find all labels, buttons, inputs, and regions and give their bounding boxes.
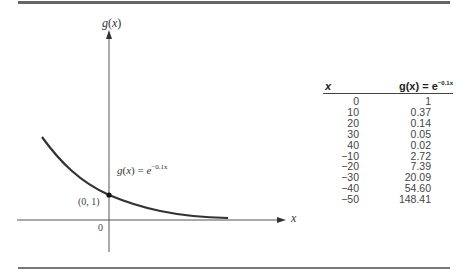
table-row: 01	[323, 96, 453, 107]
point-label: (0, 1)	[78, 196, 100, 207]
cell-g: 0.14	[359, 118, 453, 129]
cell-x: 40	[323, 140, 359, 151]
header-g-exp: −0.1x	[438, 80, 453, 86]
bottom-rule	[18, 267, 450, 269]
table-header: x g(x) = e−0.1x	[323, 80, 453, 94]
y-axis-arrow-icon	[106, 30, 112, 39]
exponential-curve	[42, 137, 228, 218]
origin-label: 0	[98, 222, 103, 233]
cell-x: 30	[323, 129, 359, 140]
curve-label-exp: −0.1x	[151, 163, 167, 171]
curve-label: g(x) = e−0.1x	[117, 163, 168, 176]
header-g-text: g(x) = e	[399, 80, 438, 92]
cell-g: 0.05	[359, 129, 453, 140]
table-row: 100.37	[323, 107, 453, 118]
x-axis-label: x	[291, 211, 296, 226]
point-0-1	[106, 192, 111, 197]
table-row: 200.14	[323, 118, 453, 129]
table-row: −50148.41	[323, 194, 453, 205]
y-axis-label-arg: (x)	[108, 16, 121, 30]
curve-label-eq: =	[135, 164, 147, 176]
values-table: x g(x) = e−0.1x 01 100.37 200.14 300.05 …	[323, 80, 453, 205]
table-row: 300.05	[323, 129, 453, 140]
cell-g: 2.72	[359, 151, 453, 162]
header-x: x	[323, 80, 331, 92]
table-row: 400.02	[323, 140, 453, 151]
cell-g: 0.02	[359, 140, 453, 151]
header-g: g(x) = e−0.1x	[399, 80, 453, 92]
cell-g: 1	[359, 96, 453, 107]
x-axis-arrow-icon	[277, 217, 286, 223]
cell-x: −50	[323, 194, 359, 205]
cell-g: 148.41	[359, 194, 453, 205]
cell-g: 0.37	[359, 107, 453, 118]
y-axis-label: g(x)	[102, 16, 121, 31]
curve-label-paren: (x)	[123, 164, 135, 176]
